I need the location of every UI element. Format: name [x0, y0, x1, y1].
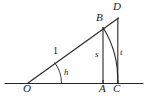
label-tangent-t: t — [120, 48, 123, 57]
label-point-B: B — [96, 12, 103, 23]
label-radius-length: 1 — [53, 46, 58, 56]
label-angle-h: h — [64, 68, 69, 77]
label-sine-s: s — [95, 50, 99, 59]
angle-arc-h — [55, 63, 62, 83]
geometry-figure: O A C B D 1 h s t — [0, 0, 149, 99]
hypotenuse-ray-OD — [28, 18, 119, 83]
label-point-D: D — [113, 1, 121, 12]
label-point-O: O — [23, 83, 31, 94]
unit-arc-BC — [103, 28, 118, 84]
label-point-C: C — [113, 83, 120, 94]
label-point-A: A — [99, 83, 106, 94]
